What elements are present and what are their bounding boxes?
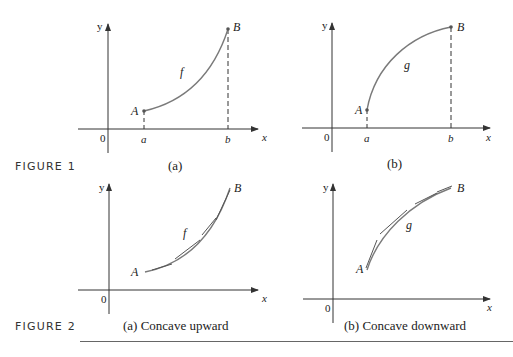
bottom-rule: [80, 341, 513, 342]
point-b-dot: [449, 25, 453, 29]
figure2-caption-a: (a) Concave upward: [123, 318, 228, 334]
x-end-label: b: [448, 132, 454, 144]
figure1-label: FIGURE 1: [15, 160, 76, 173]
point-b-label: B: [457, 181, 465, 195]
x-axis-label: x: [261, 131, 267, 143]
function-label-f: f: [180, 65, 185, 79]
y-axis-label: y: [97, 20, 103, 32]
function-label-g: g: [404, 58, 410, 72]
point-b-label: B: [233, 20, 241, 34]
tangent-lines: [152, 190, 230, 270]
x-start-label: a: [364, 132, 370, 144]
point-a-label: A: [354, 103, 363, 117]
origin-label: 0: [100, 132, 106, 144]
x-end-label: b: [225, 133, 231, 145]
function-label-g: g: [406, 218, 412, 232]
figure1-panel-a: y 0 A B f a b x: [78, 20, 267, 153]
figure2-caption-b: (b) Concave downward: [344, 318, 466, 334]
point-b-label: B: [234, 181, 242, 195]
curve-f: [144, 29, 228, 111]
point-a-dot: [142, 109, 146, 113]
point-b-dot: [226, 27, 230, 31]
x-axis-label: x: [486, 301, 492, 313]
point-a-label: A: [130, 265, 139, 279]
x-start-label: a: [141, 133, 147, 145]
figure1-panel-b: y 0 A B g a b x: [302, 19, 491, 152]
origin-label: 0: [324, 131, 330, 143]
figure2-label: FIGURE 2: [15, 320, 76, 333]
y-axis-label: y: [322, 19, 328, 31]
point-a-label: A: [130, 104, 139, 118]
origin-label: 0: [325, 302, 331, 314]
function-label-f: f: [183, 226, 188, 240]
figure1-caption-a: (a): [168, 158, 182, 174]
figure2-panel-b: y 0 A B g x: [303, 181, 492, 323]
point-a-label: A: [355, 262, 364, 276]
figure2-panel-a: y 0 A B f x: [78, 181, 267, 314]
x-axis-label: x: [261, 292, 267, 304]
figures-canvas: y 0 A B f a b x y 0 A B g a b x y 0: [0, 0, 513, 357]
y-axis-label: y: [323, 181, 329, 193]
point-a-dot: [365, 108, 369, 112]
origin-label: 0: [101, 293, 107, 305]
curve-f: [145, 188, 230, 272]
figure1-caption-b: (b): [387, 156, 402, 172]
y-axis-label: y: [99, 181, 105, 193]
point-b-label: B: [457, 20, 465, 34]
x-axis-label: x: [485, 131, 491, 143]
